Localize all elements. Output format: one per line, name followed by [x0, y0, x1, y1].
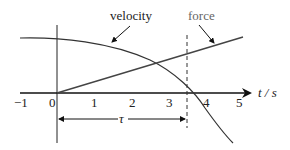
force-velocity-diagram: τ velocity force −1 0 1 2 3 4 5 t / s	[0, 0, 290, 150]
x-tick-label: 2	[129, 95, 136, 110]
force-label: force	[188, 8, 215, 23]
force-line	[57, 37, 243, 93]
velocity-curve	[20, 38, 233, 143]
x-tick-label: 4	[203, 95, 210, 110]
x-axis-label: t / s	[258, 85, 277, 100]
x-tick-label: 5	[236, 95, 243, 110]
velocity-label: velocity	[110, 8, 152, 23]
force-leader-arrow	[199, 25, 214, 43]
velocity-leader-arrow	[112, 26, 130, 42]
x-tick-label: 3	[166, 95, 173, 110]
x-tick-label: 1	[91, 95, 98, 110]
x-tick-label: 0	[49, 95, 56, 110]
x-tick-label: −1	[14, 95, 28, 110]
tau-label: τ	[119, 111, 125, 126]
